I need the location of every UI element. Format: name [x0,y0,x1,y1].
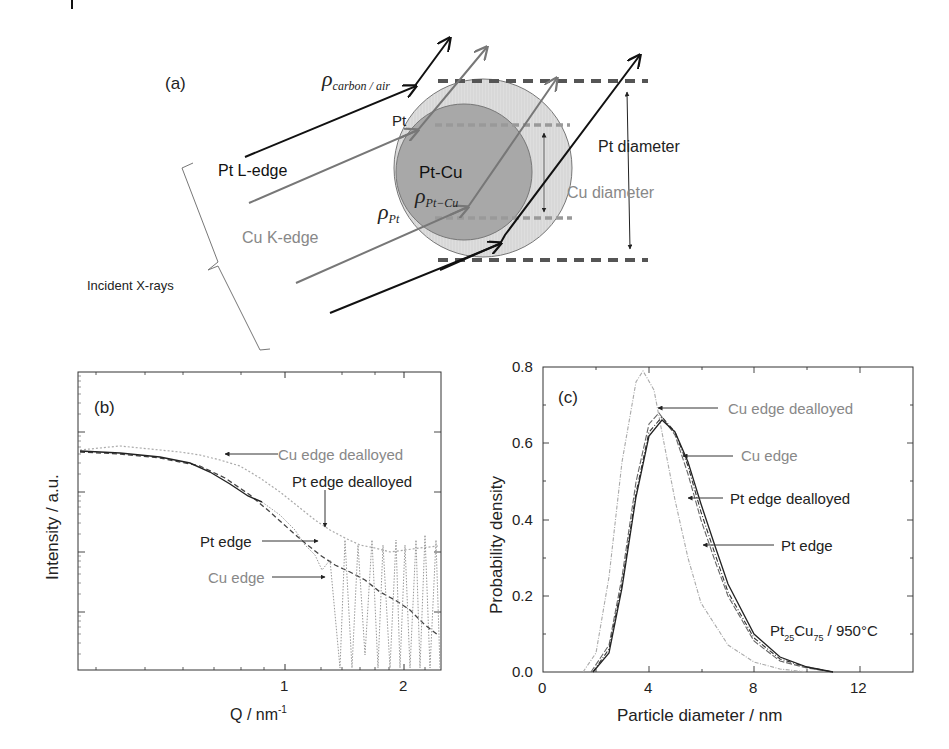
panel-b-xlabel: Q / nm-1 [230,704,287,723]
c-ytick-02: 0.2 [512,587,533,604]
panel-c-xlabel: Particle diameter / nm [617,706,782,725]
c-ytick-06: 0.6 [512,434,533,451]
incident-xrays-label: Incident X-rays [87,278,174,293]
c-xtick-4: 4 [644,679,652,696]
panel-b-label: (b) [94,398,115,417]
panel-c-ylabel: Probability density [487,476,506,614]
annot-c-cu-edge: Cu edge [741,447,798,464]
cu-k-edge-label: Cu K-edge [242,229,319,246]
pt-l-edge-label: Pt L-edge [218,162,287,179]
core-label: Pt-Cu [419,163,462,182]
cu-diameter-label: Cu diameter [567,184,655,201]
panel-b-frame [78,372,441,670]
c-ytick-08: 0.8 [512,358,533,375]
series-cu-edge [262,502,440,668]
c-xtick-12: 12 [850,679,867,696]
rho-carbon-air: ρcarbon / air [321,66,390,93]
panel-b-chart: (b) Cu edge dealloyed Pt edge dealloyed … [43,372,441,723]
shell-label: Pt [392,112,407,129]
c-xtick-0: 0 [538,679,546,696]
annot-cu-dealloyed: Cu edge dealloyed [278,446,403,463]
figure-canvas: (a) ρcarbon / air Pt Pt-Cu ρPt−Cu ρPt Pt… [0,0,949,749]
panel-a-diagram: (a) ρcarbon / air Pt Pt-Cu ρPt−Cu ρPt Pt… [87,38,680,350]
pt-ray-mid-arrow [414,86,416,87]
c-ytick-0: 0.0 [512,663,533,680]
panel-b-xtick-1: 1 [280,677,288,694]
series-pt-edge [80,451,262,502]
panel-b-ylabel: Intensity / a.u. [43,474,62,580]
annot-c-cu-dealloyed: Cu edge dealloyed [728,400,853,417]
rho-pt: ρPt [377,199,400,226]
c-ytick-04: 0.4 [512,511,533,528]
pt-diameter-label: Pt diameter [598,138,680,155]
panel-a-label: (a) [165,74,186,93]
page-marker [71,0,73,9]
c-xtick-8: 8 [749,679,757,696]
sample-annotation: Pt25Cu75 / 950°C [770,622,878,643]
incident-bracket [182,163,270,350]
annot-cu-edge: Cu edge [208,569,265,586]
pt-diameter-arrow [627,92,630,249]
annot-pt-dealloyed: Pt edge dealloyed [292,473,412,490]
annot-pt-edge: Pt edge [200,533,252,550]
panel-c-chart: (c) Cu edge dealloyed Cu edge Pt edge de… [487,358,913,725]
panel-c-label: (c) [558,388,578,407]
panel-b-xtick-2: 2 [399,677,407,694]
annot-c-pt-dealloyed: Pt edge dealloyed [730,490,850,507]
annot-c-pt-edge: Pt edge [781,537,833,554]
